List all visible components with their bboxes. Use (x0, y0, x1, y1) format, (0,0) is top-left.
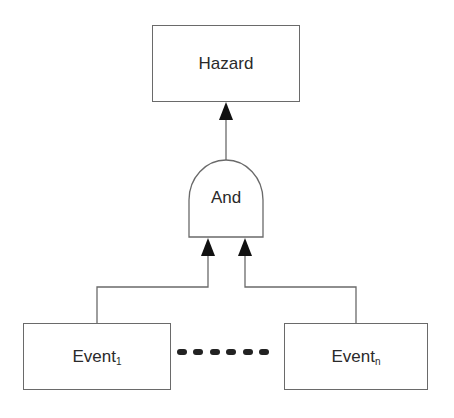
event-1-subscript: 1 (116, 356, 122, 367)
event-n-label: Eventn (331, 347, 380, 367)
ellipsis-dashes (177, 349, 269, 355)
event-1-box: Event1 (23, 323, 171, 390)
event1-to-gate-line (97, 254, 208, 323)
arrow-up-icon (219, 102, 233, 120)
arrow-up-icon (201, 238, 215, 256)
and-gate-text: And (211, 188, 241, 208)
eventn-to-gate-line (245, 254, 356, 323)
event-n-box: Eventn (284, 323, 428, 390)
event-1-label: Event1 (72, 347, 121, 367)
event-1-text: Event (72, 347, 115, 366)
event-n-subscript: n (375, 356, 381, 367)
arrow-up-icon (238, 238, 252, 256)
event-n-text: Event (331, 347, 374, 366)
hazard-label: Hazard (199, 54, 254, 74)
hazard-box: Hazard (152, 25, 300, 102)
and-gate-label: And (189, 178, 263, 218)
